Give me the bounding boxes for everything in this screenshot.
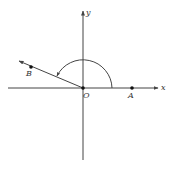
origin-point [81,86,85,90]
angle-diagram: x y O A B [0,0,175,170]
y-axis-label: y [85,8,91,17]
x-axis-label: x [161,83,166,92]
point-a-label: A [127,91,134,100]
origin-label: O [83,91,90,100]
point-b-label: B [25,69,32,78]
point-a [130,86,134,90]
rotation-arc [57,60,112,88]
